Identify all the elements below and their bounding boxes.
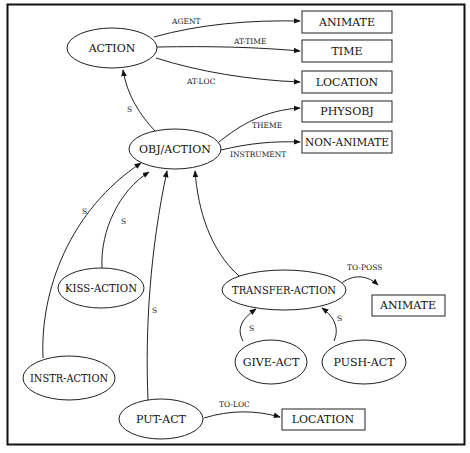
node-give-act: GIVE-ACT	[235, 340, 307, 384]
edge-label-to-loc: TO-LOC	[219, 400, 250, 409]
node-label: ANIMATE	[318, 16, 375, 29]
node-label: ACTION	[88, 42, 136, 55]
node-label: PUT-ACT	[136, 413, 186, 426]
edge-label-theme: THEME	[252, 121, 282, 130]
node-location-1: LOCATION	[302, 71, 392, 93]
edge-at-time	[157, 47, 300, 51]
node-label: GIVE-ACT	[243, 356, 300, 369]
edge-at-loc	[156, 58, 300, 82]
node-transfer-action: TRANSFER-ACTION	[222, 270, 346, 310]
edge-label-s-put: S	[152, 306, 157, 315]
semantic-network-diagram: AGENT AT-TIME AT-LOC S THEME INSTRUMENT …	[0, 0, 470, 453]
node-push-act: PUSH-ACT	[322, 340, 406, 384]
node-label: INSTR-ACTION	[30, 372, 108, 385]
edge-label-s-kiss: S	[121, 217, 126, 226]
node-instr-action: INSTR-ACTION	[23, 356, 115, 400]
node-label: KISS-ACTION	[65, 282, 137, 295]
edge-s-objaction-action	[123, 70, 155, 131]
edge-label-agent: AGENT	[171, 17, 200, 26]
edge-label-at-loc: AT-LOC	[186, 77, 216, 86]
node-label: PHYSOBJ	[320, 105, 373, 118]
node-obj-action: OBJ/ACTION	[129, 129, 221, 169]
edge-transfer-objaction	[195, 171, 239, 276]
edge-label-s-objaction-action: S	[127, 105, 132, 114]
node-location-2: LOCATION	[282, 409, 365, 430]
edge-to-loc	[204, 412, 280, 418]
edge-label-s-push: S	[337, 314, 342, 323]
node-animate-2: ANIMATE	[372, 295, 445, 316]
node-label: PUSH-ACT	[333, 356, 395, 369]
node-label: LOCATION	[292, 413, 355, 426]
edge-label-to-poss: TO-POSS	[347, 263, 382, 272]
node-label: LOCATION	[316, 76, 379, 89]
node-label: TRANSFER-ACTION	[232, 284, 336, 297]
node-label: NON-ANIMATE	[305, 136, 389, 149]
node-animate-1: ANIMATE	[302, 11, 392, 33]
node-physobj: PHYSOBJ	[302, 101, 392, 122]
node-label: OBJ/ACTION	[139, 143, 211, 156]
node-put-act: PUT-ACT	[119, 399, 203, 439]
edge-label-s-instr: S	[82, 207, 87, 216]
edge-label-s-give: S	[249, 324, 254, 333]
node-label: ANIMATE	[379, 299, 436, 312]
node-action: ACTION	[67, 28, 157, 68]
node-non-animate: NON-ANIMATE	[302, 131, 392, 153]
edge-s-push	[322, 308, 336, 341]
node-kiss-action: KISS-ACTION	[58, 268, 144, 308]
node-label: TIME	[332, 45, 363, 58]
edge-label-instrument: INSTRUMENT	[230, 150, 286, 159]
node-time: TIME	[302, 40, 392, 62]
edge-instrument	[221, 142, 300, 150]
edge-label-at-time: AT-TIME	[233, 37, 266, 46]
edge-s-put	[147, 171, 167, 400]
